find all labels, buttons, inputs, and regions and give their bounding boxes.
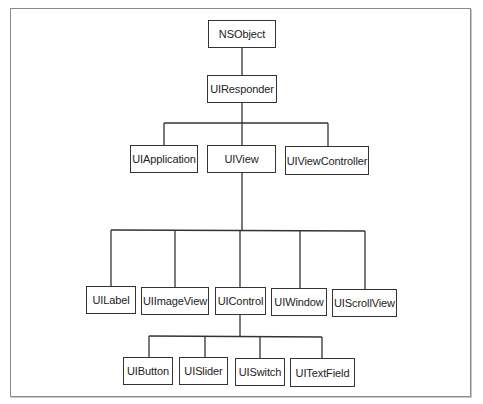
node-label: UIView (224, 153, 258, 165)
node-label: UIButton (127, 365, 169, 377)
node-label: UISwitch (239, 366, 282, 378)
edge-row4-bar (149, 336, 322, 337)
node-uiimageview: UIImageView (141, 287, 209, 315)
node-label: NSObject (219, 28, 265, 40)
node-label: UIResponder (210, 83, 274, 95)
node-uiviewcontroller: UIViewController (285, 146, 369, 175)
node-uiresponder: UIResponder (207, 75, 277, 103)
node-label: UITextField (296, 367, 350, 379)
node-label: UIScrollView (334, 297, 395, 309)
node-label: UILabel (92, 294, 129, 306)
node-uiwindow: UIWindow (271, 288, 327, 316)
node-uiscrollview: UIScrollView (332, 289, 397, 317)
node-label: UIControl (218, 295, 264, 307)
node-uicontrol: UIControl (215, 287, 266, 315)
node-uislider: UISlider (179, 357, 228, 385)
node-uiapplication: UIApplication (130, 145, 198, 173)
node-label: UISlider (184, 365, 222, 377)
node-label: UIWindow (274, 296, 323, 308)
node-nsobject: NSObject (208, 20, 276, 48)
node-label: UIImageView (143, 295, 207, 307)
node-uibutton: UIButton (123, 357, 173, 385)
edge-row3-bar (111, 230, 365, 231)
node-uiswitch: UISwitch (235, 358, 285, 386)
node-label: UIApplication (132, 153, 196, 165)
connector-lines (0, 0, 483, 404)
node-uiview: UIView (207, 145, 276, 173)
node-uilabel: UILabel (86, 286, 136, 314)
node-label: UIViewController (287, 155, 368, 167)
node-uitextfield: UITextField (290, 358, 355, 387)
